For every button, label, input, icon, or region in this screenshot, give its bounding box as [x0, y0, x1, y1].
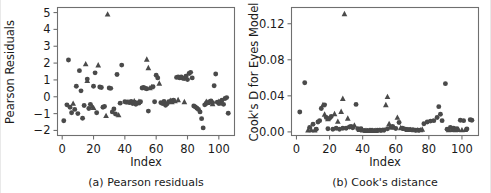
xtick-label: 40: [355, 142, 370, 156]
ytick-label: 3: [43, 39, 50, 53]
xtick-label: 20: [86, 142, 101, 156]
data-point-circle: [212, 83, 217, 88]
data-point-triangle: [146, 65, 152, 70]
ytick-label: −1: [34, 107, 51, 121]
ytick-label: 5: [43, 6, 50, 20]
data-point-triangle: [105, 11, 111, 16]
data-point-circle: [325, 126, 330, 131]
figure-two-panel-diagnostics: Pearson Residuals −2−1012345 02040608010…: [0, 0, 491, 193]
xtick-label: 100: [208, 142, 230, 156]
ytick-label: 0: [43, 90, 50, 104]
xtick-label: 0: [293, 142, 300, 156]
data-point-circle: [302, 80, 307, 85]
data-point-circle: [77, 68, 82, 73]
data-point-triangle: [338, 109, 344, 114]
ytick-label: 0.08: [259, 53, 285, 67]
data-point-circle: [201, 125, 206, 130]
ytick-label: 0.00: [259, 125, 285, 139]
data-point-circle: [190, 75, 195, 80]
panel-b-data-markers: [297, 11, 474, 133]
xtick-label: 80: [422, 142, 437, 156]
data-point-triangle: [332, 111, 338, 116]
data-point-circle: [224, 95, 229, 100]
ytick-label: 0.04: [259, 89, 285, 103]
panel-b-xtick-labels: 020406080100: [293, 142, 473, 156]
data-point-circle: [119, 63, 124, 68]
xtick-label: 80: [180, 142, 195, 156]
data-point-triangle: [83, 61, 89, 66]
data-point-circle: [99, 85, 104, 90]
xtick-label: 20: [322, 142, 337, 156]
panel-a-xtick-labels: 020406080100: [59, 142, 230, 156]
data-point-circle: [199, 116, 204, 121]
data-point-circle: [226, 111, 231, 116]
xtick-label: 40: [118, 142, 133, 156]
data-point-triangle: [386, 121, 392, 126]
data-point-circle: [146, 109, 151, 114]
panel-a-xlabel: Index: [130, 155, 162, 169]
xtick-label: 60: [149, 142, 164, 156]
panel-pearson-residuals: Pearson Residuals −2−1012345 02040608010…: [0, 0, 246, 193]
data-point-circle: [354, 102, 359, 107]
xtick-label: 100: [451, 142, 473, 156]
panel-b-plot-frame: [292, 8, 479, 136]
data-point-triangle: [340, 96, 346, 101]
data-point-circle: [188, 70, 193, 75]
data-point-triangle: [342, 11, 348, 16]
panel-a-caption: (a) Pearson residuals: [88, 176, 204, 189]
data-point-triangle: [175, 97, 181, 102]
data-point-circle: [198, 109, 203, 114]
data-point-circle: [440, 118, 445, 123]
data-point-triangle: [95, 62, 101, 67]
data-point-circle: [74, 84, 79, 89]
data-point-triangle: [335, 119, 341, 124]
data-point-triangle: [182, 99, 188, 104]
panel-b-xlabel: Index: [369, 155, 401, 169]
data-point-circle: [436, 104, 441, 109]
data-point-circle: [72, 107, 77, 112]
data-point-circle: [438, 112, 443, 117]
data-point-circle: [66, 58, 71, 63]
data-point-triangle: [156, 80, 162, 85]
data-point-circle: [82, 103, 87, 108]
data-point-triangle: [345, 115, 351, 120]
panel-a-ytick-labels: −2−1012345: [34, 6, 51, 138]
data-point-circle: [185, 77, 190, 82]
panel-a-tick-marks: [54, 13, 219, 140]
data-point-circle: [93, 70, 98, 75]
panel-cooks-distance: Cook's D for Eyes Model 0.000.040.080.12…: [245, 0, 491, 193]
data-point-circle: [108, 86, 113, 91]
data-point-circle: [155, 75, 160, 80]
data-point-circle: [79, 88, 84, 93]
panel-a-ylabel: Pearson Residuals: [3, 20, 17, 124]
panel-a-data-markers: [61, 11, 230, 130]
panel-b-ytick-labels: 0.000.040.080.12: [259, 17, 285, 139]
data-point-triangle: [395, 114, 401, 119]
data-point-circle: [152, 99, 157, 104]
xtick-label: 0: [59, 142, 66, 156]
ytick-label: −2: [34, 123, 51, 137]
ytick-label: 0.12: [259, 17, 285, 31]
data-point-circle: [317, 118, 322, 123]
data-point-triangle: [144, 56, 150, 61]
data-point-circle: [75, 111, 80, 116]
data-point-circle: [397, 120, 402, 125]
data-point-circle: [469, 118, 474, 123]
data-point-circle: [61, 118, 66, 123]
data-point-circle: [213, 72, 218, 77]
data-point-circle: [91, 84, 96, 89]
data-point-circle: [94, 110, 99, 115]
data-point-circle: [461, 118, 466, 123]
ytick-label: 1: [43, 73, 50, 87]
data-point-circle: [443, 81, 448, 86]
data-point-circle: [297, 110, 302, 115]
ytick-label: 2: [43, 56, 50, 70]
panel-a-plot-frame: [58, 8, 235, 136]
data-point-circle: [118, 101, 123, 106]
data-point-triangle: [385, 94, 391, 99]
data-point-triangle: [322, 111, 328, 116]
data-point-circle: [102, 104, 107, 109]
xtick-label: 60: [388, 142, 403, 156]
data-point-circle: [115, 72, 120, 77]
panel-a-ylabel-group: Pearson Residuals: [3, 20, 17, 124]
